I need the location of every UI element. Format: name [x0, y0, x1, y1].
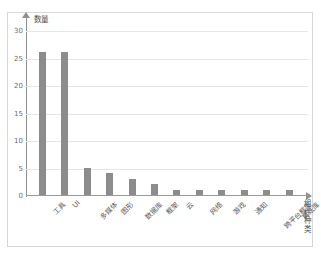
bar[interactable] [196, 190, 203, 196]
gridline [26, 114, 308, 115]
gridline [26, 169, 308, 170]
bar[interactable] [241, 190, 248, 196]
gridline [26, 59, 308, 60]
chart-page: 数量 组件种类 051015202530 工具UI多媒体图形数据库框架云网络游戏… [0, 0, 321, 260]
plot-area [26, 20, 308, 196]
x-axis-baseline [26, 195, 308, 196]
y-axis-tick-labels: 051015202530 [0, 20, 23, 196]
gridline [26, 141, 308, 142]
bar[interactable] [39, 52, 46, 195]
y-tick-label: 5 [3, 165, 23, 173]
bar[interactable] [61, 52, 68, 195]
gridline [26, 31, 308, 32]
bar[interactable] [286, 190, 293, 196]
y-tick-label: 0 [3, 192, 23, 200]
y-tick-label: 20 [3, 82, 23, 90]
bar[interactable] [151, 184, 158, 195]
y-tick-label: 15 [3, 110, 23, 118]
y-tick-label: 25 [3, 55, 23, 63]
bar[interactable] [173, 190, 180, 196]
bar[interactable] [263, 190, 270, 196]
y-tick-label: 10 [3, 137, 23, 145]
bar[interactable] [106, 173, 113, 195]
bar[interactable] [218, 190, 225, 196]
gridline [26, 86, 308, 87]
bar[interactable] [129, 179, 136, 196]
y-tick-label: 30 [3, 27, 23, 35]
bar[interactable] [84, 168, 91, 196]
